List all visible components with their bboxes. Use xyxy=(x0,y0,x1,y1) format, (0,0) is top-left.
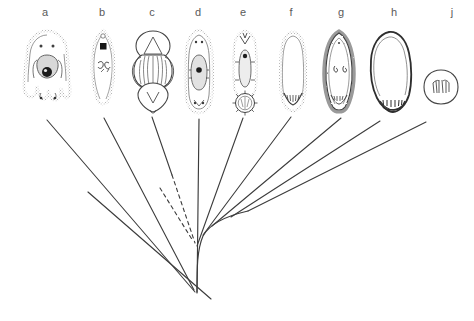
branch-uncertain-dashed xyxy=(160,188,193,241)
specimen-a-eyespot-right xyxy=(52,45,55,48)
branch-h xyxy=(231,121,380,217)
specimen-h-outline xyxy=(371,32,412,112)
specimen-d xyxy=(185,30,213,113)
taxon-label-a: a xyxy=(36,6,54,18)
branch-basal-lineage xyxy=(88,192,211,299)
specimen-a-nucleus xyxy=(42,67,52,77)
branch-e xyxy=(197,118,243,246)
specimen-g-outline xyxy=(326,33,352,110)
branch-c-dashed xyxy=(172,175,195,243)
specimen-a xyxy=(24,31,70,100)
specimen-d-apical-dot-left xyxy=(195,41,197,43)
branch-a xyxy=(47,120,195,292)
taxon-label-e: e xyxy=(234,6,252,18)
taxon-label-h: h xyxy=(385,6,403,18)
specimen-j xyxy=(424,70,458,104)
specimen-b xyxy=(92,30,114,104)
specimen-b-apical-ring xyxy=(101,34,105,38)
branch-c xyxy=(152,117,172,175)
taxon-label-b: b xyxy=(93,6,111,18)
specimen-e-nucleus xyxy=(243,54,247,58)
specimen-a-nucleolus xyxy=(44,69,47,72)
taxon-label-f: f xyxy=(282,6,300,18)
specimen-h xyxy=(371,32,412,112)
cladogram-canvas xyxy=(0,0,474,321)
specimen-d-nucleus xyxy=(196,67,202,73)
specimen-j-outline xyxy=(424,70,458,104)
tree-branches xyxy=(47,117,426,299)
taxon-label-c: c xyxy=(143,6,161,18)
branch-f xyxy=(203,117,291,235)
cladogram-figure: a b c d e f g h j xyxy=(0,0,474,321)
specimen-c-basal-chamber xyxy=(138,83,168,112)
specimen-a-foot-dot-left xyxy=(40,97,43,100)
specimen-f xyxy=(280,32,305,111)
taxon-label-g: g xyxy=(332,6,350,18)
specimen-e xyxy=(233,31,258,116)
specimen-b-black-square-marker xyxy=(100,43,107,50)
specimen-a-foot-dot-right xyxy=(54,97,57,100)
specimen-e-basal-rosette xyxy=(233,91,258,116)
specimen-c xyxy=(132,31,173,113)
branch-b xyxy=(104,118,194,290)
specimen-d-apical-dot-right xyxy=(201,41,203,43)
branch-j xyxy=(248,122,426,211)
specimen-a-eyespot-left xyxy=(40,45,43,48)
branch-g xyxy=(212,118,341,226)
specimen-g-apical-dot xyxy=(338,42,340,44)
specimen-g xyxy=(324,31,354,112)
taxon-label-d: d xyxy=(189,6,207,18)
taxon-label-j: j xyxy=(443,6,461,18)
